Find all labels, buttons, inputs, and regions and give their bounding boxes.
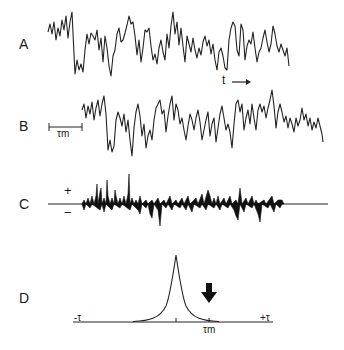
diagram-canvas [0,0,344,350]
negative-tau-label: -τ [74,312,81,323]
down-arrow-icon [201,283,217,303]
trace-c-positive-lobes [82,174,284,204]
minus-label: − [64,205,72,220]
panel-label-d: D [19,290,29,306]
panel-label-b: B [19,118,28,134]
trace-c-negative-lobes [82,204,282,226]
panel-label-a: A [19,36,28,52]
time-label: t [222,73,225,87]
panel-label-c: C [19,196,29,212]
time-arrow-icon [232,79,251,85]
plus-label: + [64,183,72,198]
tau-m-tick-label: τm [203,324,215,335]
tau-m-scale-label: τm [57,128,69,139]
trace-b [82,90,323,156]
trace-a [48,12,289,76]
positive-tau-label: +τ [260,312,270,323]
